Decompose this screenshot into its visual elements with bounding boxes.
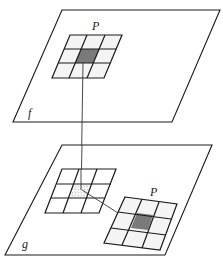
- top-grid-p-label: P: [91, 19, 100, 33]
- plane-f-outline: [13, 10, 220, 122]
- bottom-plane-g: g P: [5, 145, 212, 255]
- top-plane-f: f P: [13, 10, 220, 122]
- plane-g-label: g: [22, 237, 28, 251]
- bottom-grid-p-label: P: [149, 185, 158, 199]
- diagram-canvas: f P g P: [0, 0, 223, 269]
